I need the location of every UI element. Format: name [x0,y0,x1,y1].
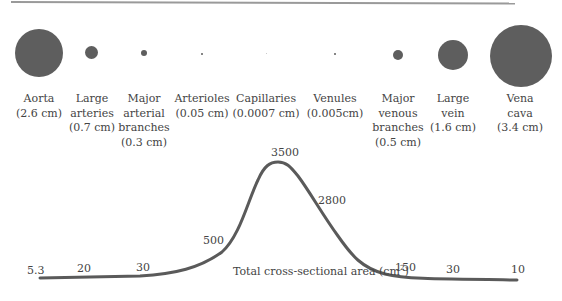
area-value-aorta: 5.3 [27,264,45,277]
area-value-large-arteries: 20 [77,262,91,275]
area-value-large-vein: 30 [446,263,460,276]
area-value-major-arterial-branches: 30 [136,261,150,274]
area-value-capillaries: 3500 [271,146,299,159]
area-value-vena-cava: 10 [511,263,525,276]
area-value-venules: 2800 [318,194,346,207]
curve-axis-label: Total cross-sectional area (cm2) [233,264,409,278]
area-value-arterioles: 500 [203,234,224,247]
